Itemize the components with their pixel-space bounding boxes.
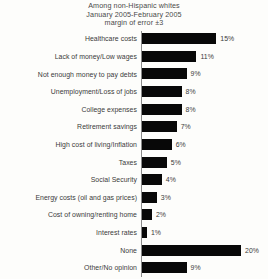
bar-track: 1% [142, 227, 161, 238]
bar-track: 7% [142, 121, 191, 132]
bar-category-label: College expenses [1, 105, 137, 114]
bar-fill [142, 245, 241, 256]
chart-title: Among non-Hispanic whites January 2005-F… [0, 2, 268, 28]
bar-fill [142, 104, 182, 115]
bar-row: High cost of living/Inflation6% [0, 136, 268, 154]
plot-area: Healthcare costs15%Lack of money/Low wag… [0, 30, 268, 278]
bar-track: 8% [142, 104, 196, 115]
bar-fill [142, 51, 196, 62]
bar-category-label: None [1, 246, 137, 255]
bar-fill [142, 192, 157, 203]
bar-category-label: Unemployment/Loss of jobs [1, 87, 137, 96]
bar-value-label: 7% [181, 123, 191, 130]
bar-value-label: 6% [176, 141, 186, 148]
bar-category-label: Taxes [1, 158, 137, 167]
bar-track: 11% [142, 51, 214, 62]
bar-chart: Among non-Hispanic whites January 2005-F… [0, 0, 268, 279]
bar-row: None20% [0, 241, 268, 259]
bar-row: Retirement savings7% [0, 118, 268, 136]
bar-track: 5% [142, 157, 181, 168]
bar-category-label: Social Security [1, 175, 137, 184]
bar-track: 6% [142, 139, 186, 150]
bar-fill [142, 262, 187, 273]
bar-row: Cost of owning/renting home2% [0, 206, 268, 224]
bar-row: Interest rates1% [0, 224, 268, 242]
bar-fill [142, 174, 162, 185]
bar-row: Social Security4% [0, 171, 268, 189]
bar-value-label: 9% [191, 264, 201, 271]
bar-track: 9% [142, 262, 201, 273]
bar-category-label: Lack of money/Low wages [1, 52, 137, 61]
bar-value-label: 3% [161, 194, 171, 201]
bar-track: 20% [142, 245, 259, 256]
bar-value-label: 8% [186, 106, 196, 113]
bar-row: College expenses8% [0, 100, 268, 118]
bar-category-label: Other/No opinion [1, 263, 137, 272]
bar-category-label: Interest rates [1, 228, 137, 237]
bar-category-label: Retirement savings [1, 122, 137, 131]
bar-fill [142, 157, 167, 168]
bar-value-label: 11% [200, 53, 213, 60]
chart-title-line-3: margin of error ±3 [0, 19, 268, 28]
bar-row: Not enough money to pay debts9% [0, 65, 268, 83]
bar-fill [142, 209, 152, 220]
bar-fill [142, 227, 147, 238]
bar-track: 9% [142, 68, 201, 79]
bar-value-label: 15% [220, 35, 234, 42]
bar-track: 4% [142, 174, 176, 185]
bar-category-label: Energy costs (oil and gas prices) [1, 193, 137, 202]
bar-category-label: Healthcare costs [1, 34, 137, 43]
bar-value-label: 4% [166, 176, 176, 183]
bar-row: Energy costs (oil and gas prices)3% [0, 189, 268, 207]
bar-track: 8% [142, 86, 196, 97]
bar-category-label: High cost of living/Inflation [1, 140, 137, 149]
bar-track: 3% [142, 192, 171, 203]
bar-row: Taxes5% [0, 153, 268, 171]
bar-fill [142, 121, 177, 132]
bar-row: Lack of money/Low wages11% [0, 48, 268, 66]
bar-row: Other/No opinion9% [0, 259, 268, 277]
bar-track: 15% [142, 33, 234, 44]
bar-row: Unemployment/Loss of jobs8% [0, 83, 268, 101]
bar-value-label: 2% [156, 211, 166, 218]
bar-value-label: 1% [151, 229, 161, 236]
bar-category-label: Cost of owning/renting home [1, 210, 137, 219]
bar-fill [142, 68, 187, 79]
bar-track: 2% [142, 209, 166, 220]
bar-fill [142, 33, 216, 44]
bar-value-label: 20% [245, 247, 259, 254]
bar-value-label: 8% [186, 88, 196, 95]
bar-category-label: Not enough money to pay debts [1, 70, 137, 79]
bar-fill [142, 139, 172, 150]
bar-fill [142, 86, 182, 97]
bar-value-label: 9% [191, 70, 201, 77]
bar-value-label: 5% [171, 159, 181, 166]
bar-row: Healthcare costs15% [0, 30, 268, 48]
